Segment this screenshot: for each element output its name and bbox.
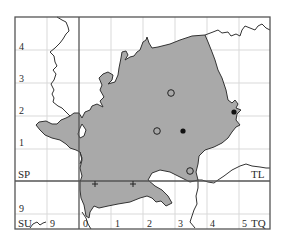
distribution-map: 4 3 2 1 9 9 0 1 2 3 4 5 SP TL SU TQ bbox=[0, 0, 282, 239]
grid-square-tl: TL bbox=[251, 168, 265, 180]
x-label-5: 5 bbox=[242, 218, 247, 229]
y-label-3: 3 bbox=[19, 73, 24, 84]
shaded-region bbox=[36, 35, 241, 218]
filled-circle-record bbox=[231, 109, 236, 114]
x-label-1: 1 bbox=[115, 218, 120, 229]
grid-square-sp: SP bbox=[18, 168, 30, 180]
grid-square-su: SU bbox=[18, 217, 32, 229]
x-label-9: 9 bbox=[50, 218, 55, 229]
filled-circle-record bbox=[180, 128, 185, 133]
grid-square-tq: TQ bbox=[251, 217, 266, 229]
y-label-4: 4 bbox=[19, 41, 24, 52]
x-label-2: 2 bbox=[147, 218, 152, 229]
x-label-3: 3 bbox=[178, 218, 183, 229]
x-label-0: 0 bbox=[83, 218, 88, 229]
y-label-1: 1 bbox=[19, 137, 24, 148]
x-label-4: 4 bbox=[210, 218, 215, 229]
y-label-2: 2 bbox=[19, 105, 24, 116]
y-label-9: 9 bbox=[19, 203, 24, 214]
